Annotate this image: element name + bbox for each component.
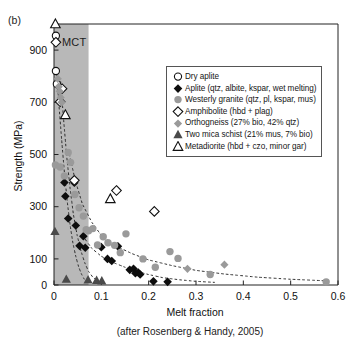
data-point-open-diamond (150, 207, 160, 217)
legend-marker-gray-diamond (172, 118, 184, 129)
data-point-filled-diamond (149, 277, 158, 286)
data-point-open-triangle (51, 19, 61, 28)
data-point-open-diamond (173, 107, 183, 117)
y-tick-label: 300 (29, 200, 47, 212)
data-point-gray-circle (80, 212, 87, 219)
legend-item-5[interactable]: Two mica schist (21% mus, 7% bio) (171, 129, 316, 141)
legend-marker-open-circle (172, 71, 184, 82)
data-point-gray-circle (174, 96, 181, 103)
legend-item-0[interactable]: Dry aplite (171, 71, 316, 83)
legend-marker-gray-circle (172, 94, 184, 105)
data-point-gray-circle (207, 271, 214, 278)
scatter-plot-canvas: 00.10.20.30.40.50.60100300500700900 (0, 0, 360, 347)
legend-marker-filled-triangle (172, 129, 184, 140)
data-point-gray-diamond (174, 119, 182, 127)
x-tick-label: 0 (51, 290, 57, 302)
filled-diamond-icon (171, 83, 185, 95)
legend-item-label: Westerly granite (qtz, pl, kspar, mus) (185, 94, 316, 106)
legend-item-label: Orthogneiss (27% bio, 42% qtz) (185, 117, 299, 129)
data-point-gray-circle (111, 242, 118, 249)
gray-diamond-icon (171, 117, 185, 129)
data-point-open-triangle (106, 194, 116, 203)
open-diamond-icon (171, 106, 185, 118)
data-point-gray-circle (152, 264, 159, 271)
x-tick-label: 0.6 (331, 290, 346, 302)
open-triangle-icon (171, 141, 185, 153)
data-point-gray-circle (75, 204, 82, 211)
x-tick-label: 0.2 (141, 290, 156, 302)
legend-item-6[interactable]: Metadiorite (hbd + czo, minor gar) (171, 141, 316, 153)
trend-curve-lower-decay-curve (82, 235, 215, 282)
figure-container: (b) 00.10.20.30.40.50.60100300500700900 … (0, 0, 360, 347)
y-tick-label: 700 (29, 96, 47, 108)
legend-item-2[interactable]: Westerly granite (qtz, pl, kspar, mus) (171, 94, 316, 106)
data-point-gray-circle (56, 163, 63, 170)
data-point-gray-circle (122, 230, 129, 237)
series-gray-circle (52, 149, 330, 286)
data-point-open-circle (174, 73, 181, 80)
data-point-gray-circle (139, 255, 146, 262)
open-circle-icon (171, 71, 185, 83)
legend: Dry apliteAplite (qtz, albite, kspar, we… (166, 66, 322, 157)
data-point-gray-circle (104, 239, 111, 246)
data-point-gray-circle (322, 278, 329, 285)
mct-band-label: MCT (62, 36, 86, 48)
y-axis-title: Strength (MPa) (12, 86, 24, 226)
legend-item-label: Amphibolite (hbd + plag) (185, 106, 273, 118)
legend-item-label: Aplite (qtz, albite, kspar, wet melting) (185, 83, 316, 95)
y-tick-label: 500 (29, 148, 47, 160)
x-tick-label: 0.1 (94, 290, 109, 302)
legend-item-3[interactable]: Amphibolite (hbd + plag) (171, 106, 316, 118)
y-tick-label: 100 (29, 253, 47, 265)
data-point-gray-circle (166, 248, 173, 255)
x-tick-label: 0.3 (189, 290, 204, 302)
legend-item-label: Two mica schist (21% mus, 7% bio) (185, 129, 313, 141)
legend-marker-open-triangle (172, 141, 184, 152)
legend-marker-open-diamond (172, 106, 184, 117)
data-point-open-diamond (112, 186, 122, 196)
x-tick-label: 0.4 (236, 290, 251, 302)
data-point-gray-circle (89, 225, 96, 232)
data-point-filled-triangle (173, 130, 182, 138)
y-tick-label: 0 (41, 279, 47, 291)
data-point-open-triangle (173, 141, 183, 150)
legend-item-label: Metadiorite (hbd + czo, minor gar) (185, 141, 306, 153)
source-credit: (after Rosenberg & Handy, 2005) (95, 326, 285, 337)
gray-circle-icon (171, 94, 185, 106)
data-point-gray-circle (61, 172, 68, 179)
legend-item-4[interactable]: Orthogneiss (27% bio, 42% qtz) (171, 117, 316, 129)
legend-item-1[interactable]: Aplite (qtz, albite, kspar, wet melting) (171, 83, 316, 95)
data-point-gray-diamond (220, 261, 228, 269)
data-point-gray-circle (94, 241, 101, 248)
data-point-gray-circle (67, 159, 74, 166)
x-axis-title: Melt fraction (120, 306, 270, 318)
legend-marker-filled-diamond (172, 83, 184, 94)
legend-item-label: Dry aplite (185, 71, 219, 83)
data-point-gray-circle (71, 191, 78, 198)
data-point-gray-circle (174, 255, 181, 262)
data-point-gray-circle (100, 233, 107, 240)
data-point-open-circle (52, 67, 59, 74)
data-point-gray-circle (65, 149, 72, 156)
y-tick-label: 900 (29, 44, 47, 56)
data-point-gray-circle (117, 249, 124, 256)
filled-triangle-icon (171, 129, 185, 141)
data-point-filled-diamond (174, 84, 183, 93)
data-point-gray-diamond (183, 265, 191, 273)
x-tick-label: 0.5 (283, 290, 298, 302)
